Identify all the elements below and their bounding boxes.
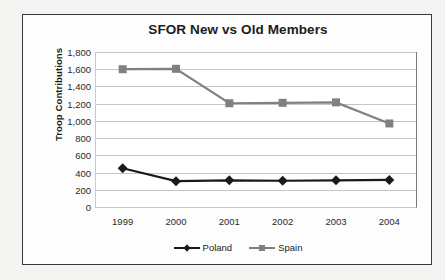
- data-point-spain[interactable]: [225, 99, 233, 107]
- y-axis-title: Troop Contributions: [53, 35, 64, 155]
- data-point-poland[interactable]: [171, 176, 181, 186]
- data-point-spain[interactable]: [385, 119, 393, 127]
- y-tick-label: 1,400: [67, 81, 91, 92]
- y-tick-label: 1,600: [67, 64, 91, 75]
- data-point-spain[interactable]: [279, 99, 287, 107]
- data-point-poland[interactable]: [384, 175, 394, 185]
- data-point-poland[interactable]: [118, 163, 128, 173]
- y-tick-label: 600: [75, 150, 91, 161]
- data-point-spain[interactable]: [172, 65, 180, 73]
- y-tick-label: 200: [75, 184, 91, 195]
- plot-area: 02004006008001,0001,2001,4001,6001,800 1…: [95, 52, 417, 208]
- gridline: [96, 207, 416, 208]
- y-tick-label: 0: [86, 202, 91, 213]
- y-tick-label: 1,800: [67, 47, 91, 58]
- series-line-spain: [123, 69, 390, 124]
- data-point-poland[interactable]: [278, 176, 288, 186]
- series-line-poland: [123, 168, 390, 181]
- y-tick-label: 400: [75, 167, 91, 178]
- x-tick-label: 2004: [379, 216, 400, 227]
- y-tick-label: 1,000: [67, 115, 91, 126]
- data-point-spain[interactable]: [332, 98, 340, 106]
- chart-title: SFOR New vs Old Members: [23, 22, 431, 37]
- data-point-poland[interactable]: [331, 175, 341, 185]
- x-tick-label: 2001: [219, 216, 240, 227]
- series-layer: [96, 52, 416, 207]
- legend-item-poland[interactable]: Poland: [174, 242, 233, 253]
- x-tick-label: 1999: [112, 216, 133, 227]
- legend-item-spain[interactable]: Spain: [249, 242, 302, 253]
- legend-label-poland: Poland: [203, 242, 233, 253]
- poland-marker-icon: [174, 243, 200, 253]
- x-tick-label: 2003: [325, 216, 346, 227]
- data-point-spain[interactable]: [119, 65, 127, 73]
- spain-marker-icon: [249, 243, 275, 253]
- y-tick-label: 800: [75, 133, 91, 144]
- y-tick-label: 1,200: [67, 98, 91, 109]
- chart-legend: Poland Spain: [23, 242, 431, 253]
- page-background: SFOR New vs Old Members Troop Contributi…: [0, 0, 445, 280]
- data-point-poland[interactable]: [224, 175, 234, 185]
- x-tick-label: 2002: [272, 216, 293, 227]
- x-tick-label: 2000: [165, 216, 186, 227]
- legend-label-spain: Spain: [278, 242, 302, 253]
- chart-frame: SFOR New vs Old Members Troop Contributi…: [22, 14, 432, 265]
